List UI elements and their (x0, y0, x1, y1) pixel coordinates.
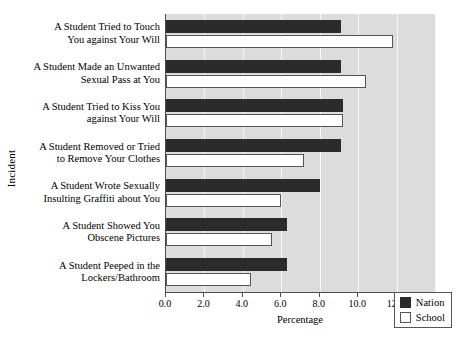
bar-school (166, 35, 393, 48)
category-label-line: Obscene Pictures (87, 232, 160, 245)
category-label: A Student Removed or Triedto Remove Your… (18, 133, 164, 173)
category-label-line: A Student Tried to Kiss You (42, 101, 160, 114)
legend-label: Nation (416, 297, 445, 308)
bar-group (166, 252, 435, 292)
category-label-line: Insulting Graffiti about You (44, 193, 160, 206)
category-label-line: to Remove Your Clothes (57, 153, 160, 166)
category-label: A Student Showed YouObscene Pictures (18, 213, 164, 253)
bar-nation (166, 258, 287, 271)
bar-nation (166, 20, 341, 33)
category-label: A Student Wrote SexuallyInsulting Graffi… (18, 173, 164, 213)
plot-area (165, 14, 435, 293)
bar-row (166, 75, 435, 88)
legend-swatch-nation (400, 297, 411, 308)
x-tick-label: 0.0 (145, 298, 185, 309)
category-labels: A Student Tried to TouchYou against Your… (18, 14, 164, 292)
legend-item: Nation (400, 297, 445, 308)
category-label: A Student Tried to TouchYou against Your… (18, 14, 164, 54)
category-label-line: A Student Removed or Tried (39, 141, 160, 154)
bar-school (166, 273, 251, 286)
x-tick (203, 293, 204, 297)
category-label-line: Lockers/Bathroom (81, 272, 160, 285)
legend-item: School (400, 312, 445, 323)
bar-row (166, 258, 435, 271)
bar-nation (166, 60, 341, 73)
bar-row (166, 218, 435, 231)
category-label-line: You against Your Will (67, 34, 160, 47)
bar-chart: Incident A Student Tried to TouchYou aga… (0, 0, 460, 337)
bar-group (166, 213, 435, 253)
x-tick (319, 293, 320, 297)
bar-school (166, 233, 272, 246)
category-label-line: Sexual Pass at You (81, 74, 160, 87)
x-tick (242, 293, 243, 297)
bar-row (166, 273, 435, 286)
category-label-line: A Student Tried to Touch (54, 21, 160, 34)
category-label: A Student Tried to Kiss Youagainst Your … (18, 93, 164, 133)
bar-row (166, 60, 435, 73)
category-label-line: A Student Made an Unwanted (33, 61, 160, 74)
bar-school (166, 154, 304, 167)
gridline (435, 14, 436, 292)
bar-group (166, 93, 435, 133)
legend-swatch-school (400, 312, 411, 323)
bar-row (166, 233, 435, 246)
category-label: A Student Peeped in theLockers/Bathroom (18, 252, 164, 292)
bar-nation (166, 179, 320, 192)
category-label-line: A Student Wrote Sexually (51, 180, 160, 193)
bar-groups (166, 14, 435, 292)
bar-school (166, 75, 366, 88)
bar-nation (166, 99, 343, 112)
bar-row (166, 154, 435, 167)
category-label: A Student Made an UnwantedSexual Pass at… (18, 54, 164, 94)
x-tick-label: 2.0 (183, 298, 223, 309)
x-tick (357, 293, 358, 297)
bar-school (166, 194, 281, 207)
x-tick-label: 10.0 (337, 298, 377, 309)
bar-nation (166, 218, 287, 231)
bar-row (166, 99, 435, 112)
bar-nation (166, 139, 341, 152)
legend-label: School (416, 312, 445, 323)
bar-row (166, 20, 435, 33)
x-tick (280, 293, 281, 297)
category-label-line: A Student Peeped in the (59, 260, 160, 273)
bar-row (166, 114, 435, 127)
x-tick (165, 293, 166, 297)
bar-school (166, 114, 343, 127)
x-tick-label: 8.0 (299, 298, 339, 309)
bar-group (166, 173, 435, 213)
bar-group (166, 133, 435, 173)
bar-group (166, 14, 435, 54)
category-label-line: against Your Will (87, 113, 160, 126)
bar-row (166, 194, 435, 207)
bar-group (166, 54, 435, 94)
category-label-line: A Student Showed You (63, 220, 160, 233)
chart-legend: NationSchool (394, 292, 452, 328)
bar-row (166, 35, 435, 48)
x-tick-label: 6.0 (260, 298, 300, 309)
bar-row (166, 139, 435, 152)
x-tick-label: 4.0 (222, 298, 262, 309)
bar-row (166, 179, 435, 192)
